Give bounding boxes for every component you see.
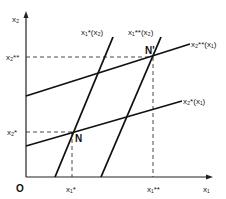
label-x1-star: x₁*(x₂) bbox=[81, 28, 104, 37]
curve-x2-star bbox=[26, 101, 182, 146]
label-x2-dstar: x₂**(x₁) bbox=[191, 40, 217, 49]
curve-x1-dstar bbox=[101, 37, 161, 177]
tick-x1-star: x₁* bbox=[66, 185, 76, 194]
tick-x2-star: x₂* bbox=[7, 128, 17, 137]
y-axis-label: x₂ bbox=[12, 15, 19, 24]
tick-x1-dstar: x₁** bbox=[147, 185, 160, 194]
equilibrium-diagram: x₂**(x₁) x₂*(x₁) x₁*(x₂) x₁**(x₂) N N' x… bbox=[0, 0, 226, 199]
point-N-prime: N' bbox=[145, 45, 155, 56]
x-axis-arrow-icon bbox=[206, 175, 213, 180]
label-x2-star: x₂*(x₁) bbox=[183, 97, 206, 106]
origin-label: O bbox=[16, 183, 24, 194]
x-axis-label: x₁ bbox=[203, 185, 210, 194]
label-x1-dstar: x₁**(x₂) bbox=[128, 28, 154, 37]
curve-x1-star bbox=[55, 37, 113, 177]
curve-x2-dstar bbox=[26, 44, 190, 96]
tick-x2-dstar: x₂** bbox=[6, 53, 19, 62]
y-axis-arrow-icon bbox=[24, 11, 29, 18]
point-N: N bbox=[75, 133, 82, 144]
